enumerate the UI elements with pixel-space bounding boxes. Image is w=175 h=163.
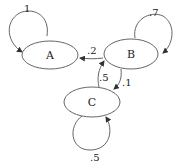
node-a: A <box>22 41 78 69</box>
edge-label-c-c: .5 <box>90 152 100 163</box>
edge-label-b-c: .1 <box>122 77 132 88</box>
edge-label-c-b: .5 <box>99 72 109 83</box>
edge-label-b-b: .7 <box>149 7 159 18</box>
edge-b-to-c: .1 <box>114 69 132 89</box>
edge-label-a-a: 1 <box>24 3 30 14</box>
node-b: B <box>104 39 158 69</box>
edge-c-to-b: .5 <box>98 61 108 87</box>
node-label-c: C <box>88 96 96 109</box>
node-c: C <box>64 87 120 117</box>
markov-chain-diagram: 1 .7 .2 .5 .1 .5 A B C <box>0 0 175 163</box>
edge-label-b-a: .2 <box>87 45 97 56</box>
node-label-b: B <box>127 48 135 61</box>
edge-b-to-a: .2 <box>80 45 103 59</box>
edge-c-to-c: .5 <box>73 116 110 163</box>
node-label-a: A <box>45 49 55 62</box>
